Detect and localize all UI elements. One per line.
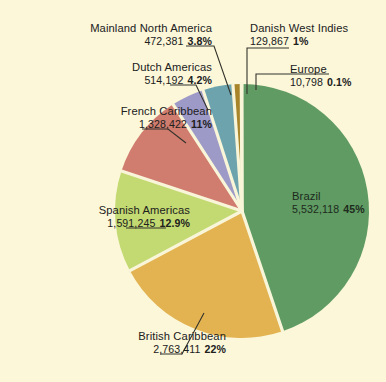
pie-label-values-europe: 10,7980.1%	[290, 76, 384, 89]
pie-label-values-mainland-north-america: 472,3813.8%	[44, 35, 212, 48]
pie-label-spanish-americas: Spanish Americas 1,591,24512.9%	[4, 204, 190, 230]
pie-label-europe: Europe 10,7980.1%	[290, 63, 384, 89]
pie-label-name-danish-west-indies: Danish West Indies	[250, 22, 384, 35]
pie-divider	[241, 84, 242, 211]
pie-label-values-spanish-americas: 1,591,24512.9%	[4, 217, 190, 230]
pie-label-value-europe: 10,798	[290, 76, 323, 88]
pie-label-percent-europe: 0.1%	[327, 76, 352, 88]
pie-label-percent-danish-west-indies: 1%	[293, 35, 309, 47]
pie-label-name-french-caribbean: French Caribbean	[16, 105, 212, 118]
pie-label-name-mainland-north-america: Mainland North America	[44, 22, 212, 35]
pie-label-danish-west-indies: Danish West Indies 129,8671%	[250, 22, 384, 48]
pie-label-value-mainland-north-america: 472,381	[144, 35, 183, 47]
pie-label-value-british-caribbean: 2,763,411	[153, 343, 200, 355]
pie-label-values-dutch-americas: 514,1924.2%	[44, 74, 212, 87]
pie-label-values-brazil: 5,532,11845%	[292, 203, 386, 216]
pie-label-percent-dutch-americas: 4.2%	[187, 74, 212, 86]
pie-label-brazil: Brazil 5,532,11845%	[292, 190, 386, 216]
pie-label-percent-spanish-americas: 12.9%	[159, 217, 190, 229]
pie-chart-figure: Mainland North America 472,3813.8% Dutch…	[0, 0, 386, 382]
pie-label-name-british-caribbean: British Caribbean	[46, 330, 226, 343]
pie-label-name-europe: Europe	[290, 63, 384, 76]
pie-label-value-french-caribbean: 1,328,422	[139, 118, 187, 130]
pie-label-values-danish-west-indies: 129,8671%	[250, 35, 384, 48]
pie-label-mainland-north-america: Mainland North America 472,3813.8%	[44, 22, 212, 48]
pie-label-percent-mainland-north-america: 3.8%	[187, 35, 212, 47]
pie-label-values-british-caribbean: 2,763,41122%	[46, 343, 226, 356]
pie-label-percent-british-caribbean: 22%	[204, 343, 226, 355]
pie-label-name-brazil: Brazil	[292, 190, 386, 203]
pie-label-value-spanish-americas: 1,591,245	[107, 217, 155, 229]
pie-label-value-brazil: 5,532,118	[292, 203, 339, 215]
pie-label-name-dutch-americas: Dutch Americas	[44, 61, 212, 74]
pie-label-percent-french-caribbean: 11%	[191, 118, 212, 130]
pie-label-value-dutch-americas: 514,192	[144, 74, 183, 86]
pie-label-name-spanish-americas: Spanish Americas	[4, 204, 190, 217]
pie-label-dutch-americas: Dutch Americas 514,1924.2%	[44, 61, 212, 87]
pie-label-french-caribbean: French Caribbean 1,328,42211%	[16, 105, 212, 131]
pie-label-british-caribbean: British Caribbean 2,763,41122%	[46, 330, 226, 356]
pie-label-value-danish-west-indies: 129,867	[250, 35, 289, 47]
pie-label-values-french-caribbean: 1,328,42211%	[16, 118, 212, 131]
pie-label-percent-brazil: 45%	[343, 203, 365, 215]
